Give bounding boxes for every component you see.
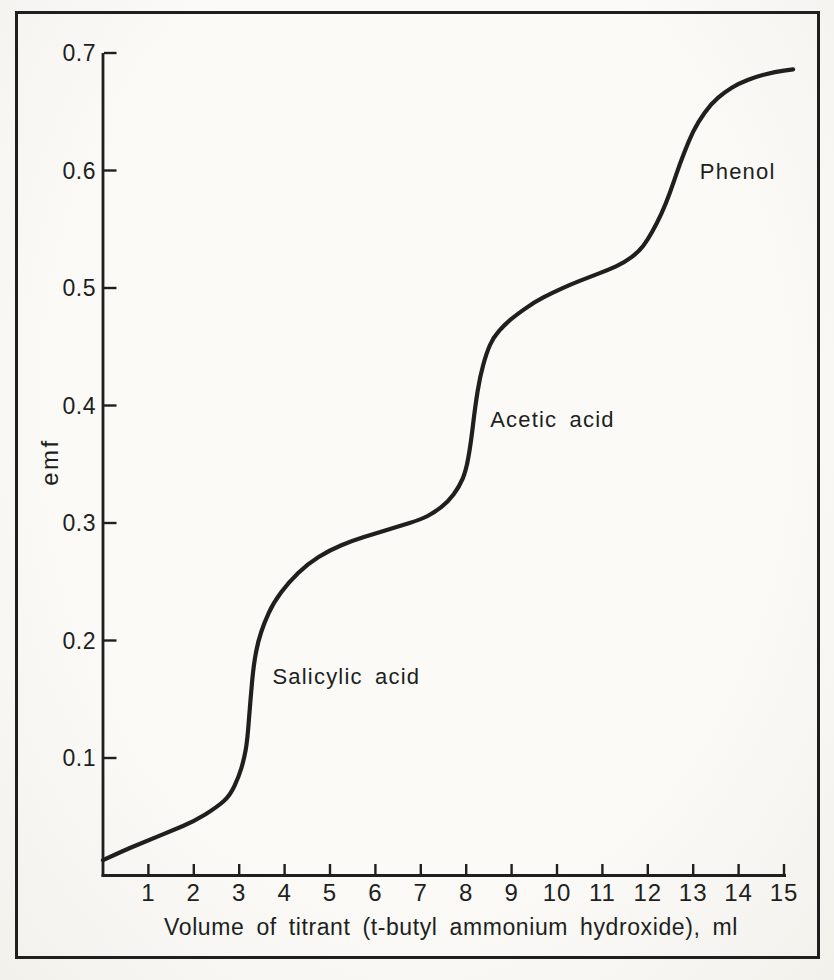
- titration-plot: [0, 0, 834, 980]
- scanned-figure-page: { "style": { "ink": "#201f1d", "paper": …: [0, 0, 834, 980]
- titration-curve: [103, 69, 793, 860]
